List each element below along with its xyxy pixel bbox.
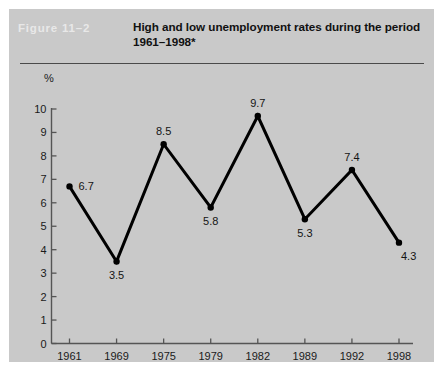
data-point-marker	[396, 239, 402, 245]
data-point-label: 6.7	[79, 180, 94, 192]
x-axis-tick-label: 1979	[198, 350, 222, 362]
line-chart-svg: % 012345678910 1961196919751979198219891…	[9, 54, 434, 362]
x-axis-tick-label: 1975	[151, 350, 175, 362]
data-point-label: 7.4	[344, 151, 359, 163]
x-axis-tick-label: 1961	[57, 350, 81, 362]
data-point-label: 3.5	[109, 269, 124, 281]
x-axis-tick-labels: 19611969197519791982198919921998	[57, 350, 411, 362]
data-point-label: 4.3	[401, 250, 416, 262]
chart-axes	[52, 108, 414, 344]
y-axis-tick-label: 9	[40, 126, 46, 138]
figure-number-label: Figure 11–2	[18, 22, 90, 34]
x-axis-tick-label: 1992	[340, 350, 364, 362]
y-axis-tick-label: 3	[40, 267, 46, 279]
x-axis-ticks	[70, 339, 400, 344]
y-axis-tick-label: 7	[40, 173, 46, 185]
figure-panel: Figure 11–2 High and low unemployment ra…	[9, 9, 434, 362]
y-axis-tick-label: 2	[40, 291, 46, 303]
y-axis-tick-label: 1	[40, 314, 46, 326]
y-axis-tick-label: 6	[40, 197, 46, 209]
x-axis-tick-label: 1998	[387, 350, 411, 362]
data-point-markers	[66, 113, 402, 265]
y-axis-tick-label: 0	[40, 338, 46, 350]
figure-title: High and low unemployment rates during t…	[133, 20, 423, 49]
data-point-label: 5.3	[297, 227, 312, 239]
x-axis-tick-label: 1989	[293, 350, 317, 362]
data-point-marker	[113, 258, 119, 264]
data-point-label: 5.8	[203, 215, 218, 227]
data-point-marker	[255, 113, 261, 119]
data-point-marker	[349, 167, 355, 173]
figure-header: Figure 11–2 High and low unemployment ra…	[9, 9, 434, 54]
y-axis-unit-label: %	[44, 72, 54, 84]
data-point-marker	[66, 183, 72, 189]
y-axis-tick-label: 4	[40, 244, 46, 256]
unemployment-data-line	[70, 116, 400, 261]
y-axis-tick-labels: 012345678910	[34, 103, 46, 350]
x-axis-tick-label: 1969	[104, 350, 128, 362]
data-point-label: 9.7	[250, 97, 265, 109]
y-axis-tick-label: 5	[40, 220, 46, 232]
y-axis-tick-label: 8	[40, 150, 46, 162]
data-point-marker	[302, 216, 308, 222]
data-point-label: 8.5	[156, 125, 171, 137]
data-point-marker	[160, 141, 166, 147]
chart-plot-area: % 012345678910 1961196919751979198219891…	[9, 54, 434, 362]
y-axis-ticks	[52, 109, 57, 344]
x-axis-tick-label: 1982	[246, 350, 270, 362]
data-point-marker	[208, 204, 214, 210]
y-axis-tick-label: 10	[34, 103, 46, 115]
